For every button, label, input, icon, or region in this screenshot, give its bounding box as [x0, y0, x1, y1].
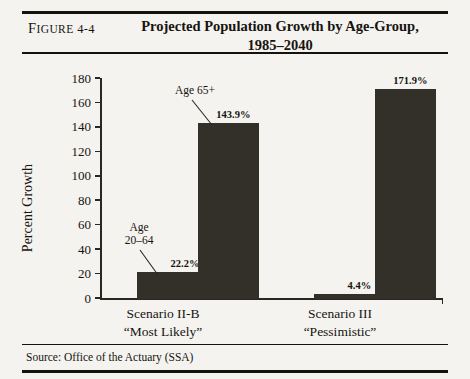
category-label-scenario-ii-b-line2: “Most Likely” [78, 323, 248, 341]
y-tick-label-100: 100 [45, 169, 91, 182]
y-axis-title: Percent Growth [20, 128, 36, 288]
rule-top [22, 11, 448, 14]
y-tick-label-40: 40 [45, 243, 91, 256]
y-tick-label-140: 140 [45, 120, 91, 133]
annotation-age-20-64-line2: 20–64 [104, 234, 174, 247]
plot-area: 180160140120100806040200 22.2%143.9%4.4%… [100, 78, 443, 299]
y-axis-title-wrapper: Percent Growth [18, 130, 38, 290]
y-tick-label-80: 80 [45, 194, 91, 207]
figure-label-number: 4-4 [74, 22, 95, 36]
category-label-scenario-ii-b: Scenario II-B “Most Likely” [78, 305, 248, 340]
rule-above-source [22, 344, 448, 345]
category-label-scenario-iii: Scenario III “Pessimistic” [255, 305, 425, 340]
title-line-2: 1985–2040 [120, 36, 440, 55]
y-tick-label-60: 60 [45, 218, 91, 231]
leader-line-age-20-64 [140, 250, 158, 275]
leader-lines [100, 78, 443, 299]
y-tick-label-180: 180 [45, 72, 91, 85]
y-tick-label-0: 0 [45, 292, 91, 305]
source-note: Source: Office of the Actuary (SSA) [26, 351, 193, 363]
annotation-age-20-64-line1: Age [104, 221, 174, 234]
category-label-scenario-ii-b-line1: Scenario II-B [78, 305, 248, 323]
annotation-age-65-plus-line1: Age 65+ [152, 84, 238, 97]
figure-label-smallcaps: IGURE [36, 23, 73, 35]
y-tick-label-120: 120 [45, 145, 91, 158]
figure-container: FIGURE 4-4 Projected Population Growth b… [0, 0, 470, 379]
x-axis-end-tick [442, 299, 444, 304]
y-tick-label-20: 20 [45, 267, 91, 280]
title-line-1: Projected Population Growth by Age-Group… [120, 17, 440, 36]
category-label-scenario-iii-line2: “Pessimistic” [255, 323, 425, 341]
rule-bottom [22, 370, 448, 373]
figure-label: FIGURE 4-4 [28, 20, 95, 37]
annotation-age-65-plus: Age 65+ [152, 84, 238, 97]
leader-line-age-65-plus [192, 100, 212, 125]
annotation-age-20-64: Age 20–64 [104, 221, 174, 247]
y-tick-label-160: 160 [45, 96, 91, 109]
category-label-scenario-iii-line1: Scenario III [255, 305, 425, 323]
page-title: Projected Population Growth by Age-Group… [120, 17, 440, 54]
